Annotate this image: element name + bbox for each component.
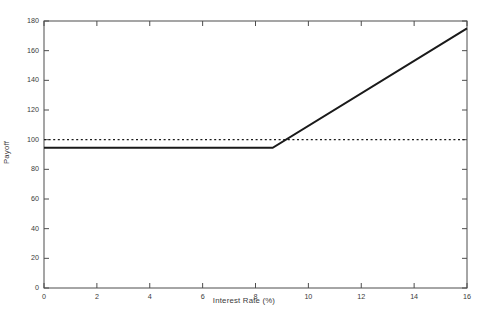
y-tick-label: 60 [9, 194, 39, 203]
y-axis-ticks [44, 21, 467, 288]
y-tick-label: 100 [9, 135, 39, 144]
plot-canvas [0, 0, 488, 318]
y-tick-label: 140 [9, 75, 39, 84]
chart-figure: 0246810121416 020406080100120140160180 I… [0, 0, 488, 318]
x-axis-ticks [44, 21, 467, 288]
y-tick-label: 160 [9, 46, 39, 55]
y-tick-label: 20 [9, 253, 39, 262]
x-axis-label: Interest Rate (%) [0, 296, 488, 305]
plot-frame [44, 21, 467, 288]
y-tick-label: 0 [9, 283, 39, 292]
y-axis-label: Payoff [2, 133, 11, 173]
y-tick-label: 80 [9, 164, 39, 173]
series-payoff-line [44, 28, 467, 147]
y-tick-label: 40 [9, 224, 39, 233]
y-tick-label: 120 [9, 105, 39, 114]
y-tick-label: 180 [9, 16, 39, 25]
